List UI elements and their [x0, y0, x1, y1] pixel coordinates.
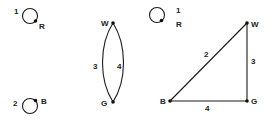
- edge-weight-right: 4: [117, 62, 122, 71]
- node-b: [34, 99, 38, 103]
- graph-4: 1 R W G B 2 3 4: [150, 6, 260, 113]
- node-b: [168, 99, 172, 103]
- node-label-g: G: [101, 99, 107, 108]
- edge-weight-bg: 4: [205, 104, 210, 113]
- node-label-r: R: [39, 22, 45, 31]
- graph-1: 1 R: [14, 7, 45, 31]
- node-label-b: B: [41, 97, 47, 106]
- loop-weight-label: 1: [14, 7, 19, 16]
- edge-weight-bw: 2: [204, 50, 209, 59]
- edge-weight-wg: 3: [251, 57, 256, 66]
- edge-left: [103, 23, 114, 102]
- node-r: [34, 19, 38, 23]
- graph-3: W G 3 4: [93, 19, 124, 108]
- graph-diagram: 1 R 2 B W G 3 4 1 R W G B 2 3 4: [0, 0, 274, 127]
- node-g: [245, 99, 249, 103]
- node-label-g: G: [251, 97, 257, 106]
- node-w: [245, 21, 249, 25]
- loop-weight-label: 2: [13, 99, 18, 108]
- node-label-w: W: [251, 20, 259, 29]
- node-w: [111, 21, 115, 25]
- edge-weight-left: 3: [93, 62, 98, 71]
- node-g: [111, 100, 115, 104]
- edge-b-w: [170, 23, 247, 101]
- node-label-b: B: [160, 97, 166, 106]
- node-label-w: W: [101, 19, 109, 28]
- node-label-r: R: [176, 20, 182, 29]
- graph-2: 2 B: [13, 97, 47, 114]
- node-r: [160, 19, 164, 23]
- loop-weight-label: 1: [176, 6, 181, 15]
